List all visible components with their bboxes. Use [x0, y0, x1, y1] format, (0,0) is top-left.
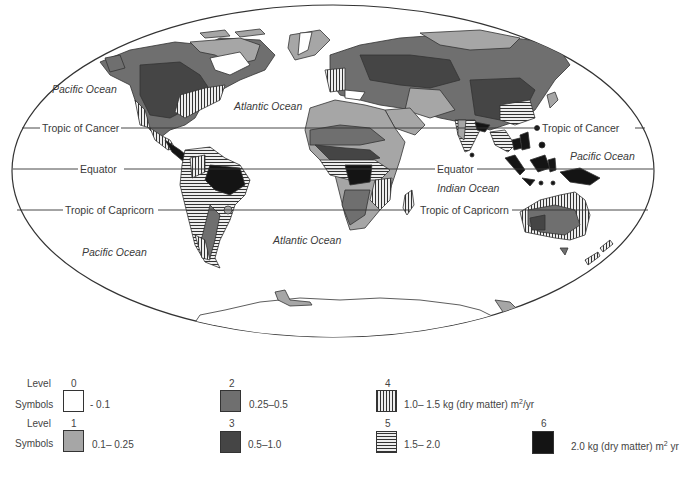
tropic-of-cancer-label-west: Tropic of Cancer [42, 122, 120, 134]
legend-level-number: 1 [71, 418, 77, 429]
legend-range-text: 2.0 kg (dry matter) m [571, 441, 664, 452]
legend-swatch-level-1 [63, 430, 84, 452]
legend-unit-tail: /yr [523, 399, 534, 410]
legend-range-text: 1.0– 1.5 kg (dry matter) m [404, 399, 519, 410]
legend-level-number: 0 [71, 378, 77, 389]
ocean-label-pacific-east: Pacific Ocean [570, 150, 635, 162]
legend-range: 0.1– 0.25 [92, 439, 134, 450]
ocean-label-atlantic-north: Atlantic Ocean [233, 100, 302, 112]
legend-swatch-level-5 [376, 431, 397, 453]
legend-swatch-level-6 [532, 431, 554, 454]
legend-unit-tail: yr [668, 441, 679, 452]
tropic-of-cancer-label-east: Tropic of Cancer [542, 122, 620, 134]
legend-symbols-label-1: Symbols [15, 399, 53, 410]
legend-range: 1.0– 1.5 kg (dry matter) m2/yr [404, 398, 534, 410]
legend-level-number: 5 [385, 418, 391, 429]
tropic-of-capricorn-label-west: Tropic of Capricorn [65, 204, 154, 216]
legend-range: - 0.1 [90, 399, 110, 410]
world-productivity-map: Tropic of Cancer Tropic of Cancer Equato… [0, 0, 695, 345]
legend-swatch-level-4 [376, 390, 397, 412]
ocean-label-atlantic-south: Atlantic Ocean [272, 234, 341, 246]
ocean-label-pacific-southwest: Pacific Ocean [82, 246, 147, 258]
legend-level-label-2: Level [27, 418, 51, 429]
tropic-of-capricorn-label-east: Tropic of Capricorn [420, 204, 509, 216]
legend-level-label-1: Level [27, 378, 51, 389]
legend-range: 0.25–0.5 [249, 399, 288, 410]
ocean-label-pacific-northwest: Pacific Ocean [52, 83, 117, 95]
legend-range: 2.0 kg (dry matter) m2 yr [571, 440, 679, 452]
ocean-label-indian: Indian Ocean [437, 182, 500, 194]
legend-range: 1.5– 2.0 [404, 439, 440, 450]
legend-swatch-level-0 [63, 390, 84, 412]
equator-label-west: Equator [80, 163, 117, 175]
legend-level-number: 6 [541, 418, 547, 429]
equator-label-east: Equator [437, 163, 474, 175]
legend: Level Symbols Level Symbols 0 - 0.1 1 0.… [0, 360, 695, 477]
legend-range: 0.5–1.0 [248, 439, 281, 450]
legend-swatch-level-3 [220, 431, 241, 453]
legend-level-number: 3 [229, 418, 235, 429]
legend-swatch-level-2 [220, 390, 241, 412]
legend-level-number: 2 [229, 378, 235, 389]
legend-symbols-label-2: Symbols [15, 438, 53, 449]
legend-level-number: 4 [385, 378, 391, 389]
